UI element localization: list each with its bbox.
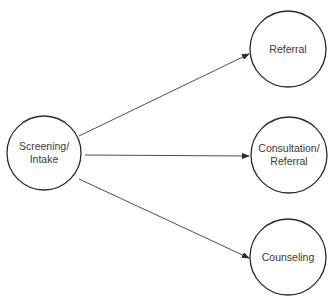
edge-to-consultation [85, 155, 249, 156]
consultation-label-line1: Consultation/ [258, 142, 319, 155]
node-counseling: Counseling [250, 219, 326, 295]
edges [79, 54, 249, 258]
node-consultation-referral: Consultation/ Referral [251, 117, 327, 193]
node-referral: Referral [250, 11, 326, 87]
screening-label-line1: Screening/ [19, 140, 69, 153]
screening-label-line2: Intake [19, 153, 69, 166]
edge-to-referral [79, 54, 249, 136]
node-screening-intake: Screening/ Intake [7, 116, 81, 190]
counseling-label: Counseling [262, 251, 315, 264]
edge-to-counseling [79, 179, 249, 258]
consultation-label-line2: Referral [258, 155, 319, 168]
referral-label: Referral [269, 43, 306, 56]
